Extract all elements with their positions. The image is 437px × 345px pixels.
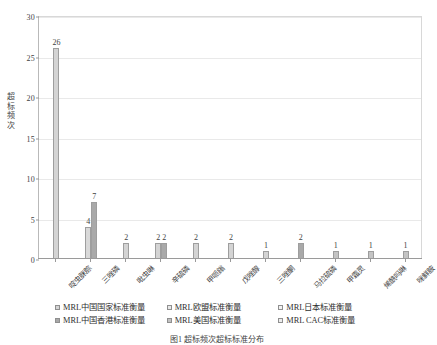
x-axis-tick-label: 马拉硫磷 bbox=[313, 265, 339, 291]
x-axis-tick-mark bbox=[300, 259, 301, 262]
bar-value-label: 4 bbox=[86, 217, 90, 226]
x-axis-tick-label: 甲霜灵 bbox=[346, 265, 367, 286]
legend-label: MRL欧盟标准衡量 bbox=[175, 301, 241, 314]
x-axis-tick-mark bbox=[335, 259, 336, 262]
x-axis-tick-label: 烯酰吗啉 bbox=[383, 265, 409, 291]
bar-value-label: 1 bbox=[334, 241, 338, 250]
legend-label: MRL中国香港标准衡量 bbox=[63, 314, 145, 327]
bar bbox=[53, 48, 59, 259]
legend-item[interactable]: MRL日本标准衡量 bbox=[278, 301, 390, 314]
bar-item: 2 bbox=[228, 17, 234, 259]
legend-label: MRL日本标准衡量 bbox=[286, 301, 352, 314]
bar bbox=[161, 243, 167, 259]
legend-swatch-icon bbox=[278, 305, 283, 310]
bar-value-label: 1 bbox=[404, 241, 408, 250]
bar-item: 2 bbox=[193, 17, 199, 259]
legend-swatch-icon bbox=[55, 318, 60, 323]
bar-group: 1 bbox=[353, 17, 388, 259]
bar-group: 1 bbox=[318, 17, 353, 259]
bar-group: 1 bbox=[248, 17, 283, 259]
bar-group: 2 bbox=[109, 17, 144, 259]
bar-item: 1 bbox=[333, 17, 339, 259]
bar-item: 2 bbox=[298, 17, 304, 259]
legend-item[interactable]: MRL欧盟标准衡量 bbox=[167, 301, 279, 314]
bar-group: 1 bbox=[388, 17, 423, 259]
x-axis-tick-mark bbox=[55, 259, 56, 262]
legend-swatch-icon bbox=[55, 305, 60, 310]
x-axis-tick-mark bbox=[125, 259, 126, 262]
x-axis-tick-mark bbox=[370, 259, 371, 262]
legend-item[interactable]: MRL中国香港标准衡量 bbox=[55, 314, 167, 327]
x-axis-tick-label: 三唑酮 bbox=[276, 265, 297, 286]
x-axis-tick-labels: 啶虫脒腙三唑磷吡虫啉辛硫磷甲哌鎓戊唑醇三唑酮马拉硫磷甲霜灵烯酰吗啉咪鲜胺 bbox=[38, 259, 422, 305]
x-axis-tick-label: 啶虫脒腙 bbox=[69, 265, 95, 291]
bar-value-label: 1 bbox=[369, 241, 373, 250]
legend-item[interactable]: MRL美国标准衡量 bbox=[167, 314, 279, 327]
x-axis-tick-label: 辛硫磷 bbox=[171, 265, 192, 286]
bar bbox=[228, 243, 234, 259]
bar-value-label: 2 bbox=[124, 233, 128, 242]
bar-value-label: 2 bbox=[299, 233, 303, 242]
x-axis-tick-mark bbox=[230, 259, 231, 262]
figure-caption: 图1 超标频次超标标准分布 bbox=[0, 333, 434, 344]
bar-value-label: 2 bbox=[156, 233, 160, 242]
bar-value-label: 1 bbox=[264, 241, 268, 250]
bar-value-label: 2 bbox=[229, 233, 233, 242]
legend-label: MRL CAC标准衡量 bbox=[286, 314, 355, 327]
bar-item: 1 bbox=[403, 17, 409, 259]
bar bbox=[91, 202, 97, 259]
bar-group: 22 bbox=[144, 17, 179, 259]
x-axis-tick-mark bbox=[90, 259, 91, 262]
bar-item: 2 bbox=[123, 17, 129, 259]
x-axis-tick-label: 吡虫啉 bbox=[136, 265, 157, 286]
chart-legend: MRL中国国家标准衡量MRL欧盟标准衡量MRL日本标准衡量MRL中国香港标准衡量… bbox=[55, 301, 390, 327]
x-axis-tick-label: 三唑磷 bbox=[102, 265, 123, 286]
bar bbox=[298, 243, 304, 259]
x-axis-tick-mark bbox=[195, 259, 196, 262]
bar-group: 2 bbox=[179, 17, 214, 259]
x-axis-tick-label: 咪鲜胺 bbox=[416, 265, 437, 286]
bar-value-label: 2 bbox=[162, 233, 166, 242]
bar-item: 2 bbox=[161, 17, 167, 259]
bar-item: 1 bbox=[263, 17, 269, 259]
bar-item: 7 bbox=[91, 17, 97, 259]
bar-group: 2 bbox=[283, 17, 318, 259]
legend-label: MRL美国标准衡量 bbox=[175, 314, 241, 327]
bar-value-label: 2 bbox=[194, 233, 198, 242]
x-axis-tick-label: 戊唑醇 bbox=[241, 265, 262, 286]
legend-swatch-icon bbox=[167, 305, 172, 310]
x-axis-tick-mark bbox=[405, 259, 406, 262]
plot-area: 05101520253026472222212111 bbox=[38, 16, 422, 259]
bar-group: 47 bbox=[74, 17, 109, 259]
bar bbox=[123, 243, 129, 259]
bar-item: 26 bbox=[53, 17, 59, 259]
legend-label: MRL中国国家标准衡量 bbox=[63, 301, 145, 314]
y-axis-title: 超标频次 bbox=[4, 92, 17, 130]
x-axis-tick-mark bbox=[160, 259, 161, 262]
bar-value-label: 26 bbox=[52, 38, 60, 47]
bar-group: 26 bbox=[39, 17, 74, 259]
bar bbox=[193, 243, 199, 259]
legend-swatch-icon bbox=[278, 318, 283, 323]
bar-item: 1 bbox=[368, 17, 374, 259]
bar-value-label: 7 bbox=[92, 192, 96, 201]
legend-item[interactable]: MRL CAC标准衡量 bbox=[278, 314, 390, 327]
bar-group: 2 bbox=[214, 17, 249, 259]
legend-item[interactable]: MRL中国国家标准衡量 bbox=[55, 301, 167, 314]
legend-swatch-icon bbox=[167, 318, 172, 323]
x-axis-tick-mark bbox=[265, 259, 266, 262]
x-axis-tick-label: 甲哌鎓 bbox=[206, 265, 227, 286]
